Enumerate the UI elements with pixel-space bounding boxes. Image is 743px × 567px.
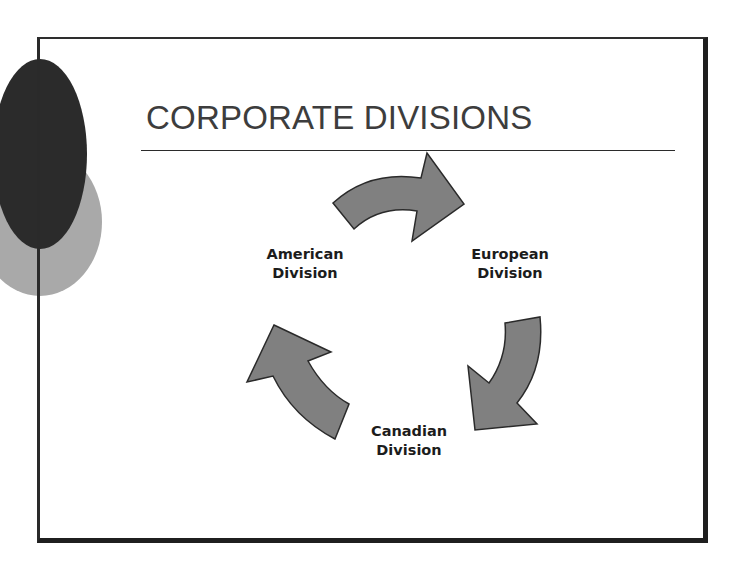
- node-canadian-division: Canadian Division: [349, 422, 469, 460]
- curved-arrow-up-icon: [247, 325, 349, 439]
- curved-arrow-down-icon: [468, 317, 541, 430]
- node-label-line1: American: [245, 245, 365, 264]
- node-european-division: European Division: [450, 245, 570, 283]
- node-label-line1: Canadian: [349, 422, 469, 441]
- slide-frame: CORPORATE DIVISIONS American Division Eu…: [37, 37, 708, 543]
- curved-arrow-right-icon: [333, 153, 464, 241]
- node-label-line2: Division: [450, 264, 570, 283]
- node-label-line1: European: [450, 245, 570, 264]
- node-label-line2: Division: [349, 441, 469, 460]
- node-label-line2: Division: [245, 264, 365, 283]
- cycle-diagram-arrows: [37, 37, 708, 543]
- node-american-division: American Division: [245, 245, 365, 283]
